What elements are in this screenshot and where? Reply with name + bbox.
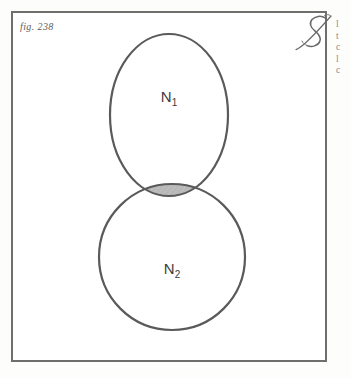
margin-text-line: c xyxy=(336,42,351,54)
clipped-margin-text: l t c l c xyxy=(336,19,351,77)
margin-text-line: t xyxy=(336,31,351,43)
set-n1-label: N1 xyxy=(161,88,178,108)
set-n2-circle xyxy=(99,184,245,330)
margin-text-line: l xyxy=(336,19,351,31)
set-n1-ellipse xyxy=(110,34,228,196)
venn-diagram: N1 N2 xyxy=(11,11,327,362)
margin-text-line: c xyxy=(336,65,351,77)
set-n2-label: N2 xyxy=(164,260,181,280)
margin-text-line: l xyxy=(336,54,351,66)
scanned-page: fig. 238 xyxy=(0,0,351,378)
